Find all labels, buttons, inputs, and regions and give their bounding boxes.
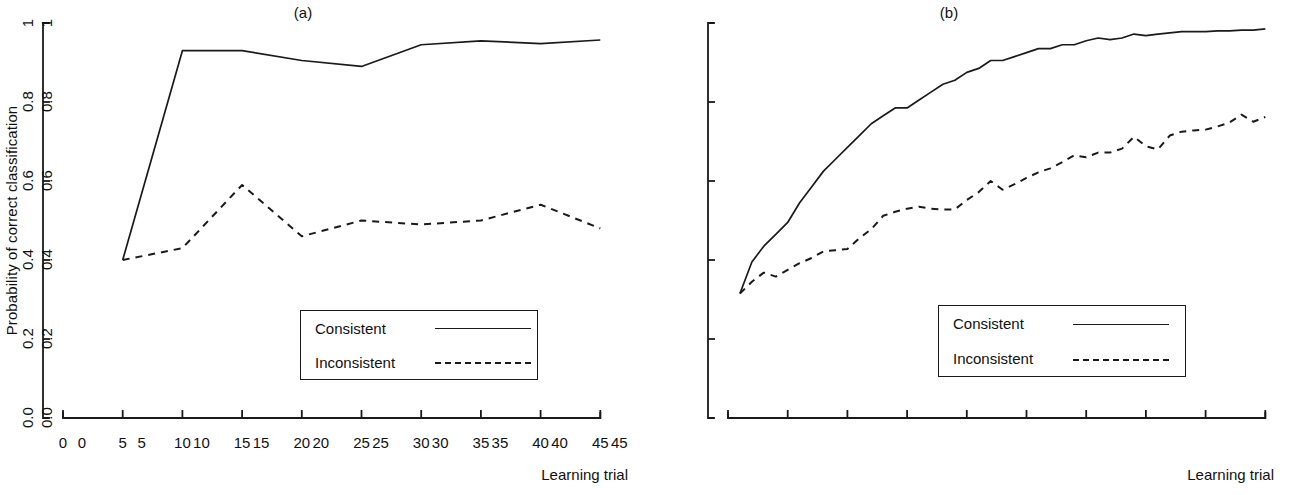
x-tick-label: 40: [551, 434, 568, 451]
y-tick-label: 0.6: [36, 173, 56, 190]
x-axis-line: [63, 412, 600, 418]
y-tick-label-text: 0.0: [19, 408, 36, 428]
x-tick-label: 45: [611, 434, 628, 451]
x-tick-label: 25: [353, 434, 370, 451]
x-tick-label: 5: [138, 434, 146, 451]
panel-a-legend-row-consistent: Consistent: [301, 311, 537, 345]
y-tick-label: 0.4: [17, 252, 37, 269]
x-tick-label: 25: [372, 434, 389, 451]
x-tick-label: 5: [119, 434, 127, 451]
y-tick-label-text: 0.6: [38, 171, 55, 191]
y-tick-label-text: 1: [19, 13, 36, 33]
y-tick-label-text: 0.0: [38, 408, 55, 428]
panel-b-legend-label-consistent: Consistent: [953, 315, 1065, 332]
series-line-inconsistent: [740, 115, 1265, 294]
chart-panel-a: (a) Probability of correct classificatio…: [0, 0, 646, 495]
y-tick-label: 0.6: [17, 173, 37, 190]
panel-b-plot-area: [646, 0, 1292, 495]
x-tick-label: 35: [492, 434, 509, 451]
x-tick-label: 35: [473, 434, 490, 451]
y-tick-label: 1: [36, 15, 56, 32]
panel-a-legend-label-consistent: Consistent: [315, 320, 427, 337]
panel-b-legend-label-inconsistent: Inconsistent: [953, 350, 1065, 367]
x-tick-label: 10: [193, 434, 210, 451]
x-tick-label: 0: [78, 434, 86, 451]
x-tick-label: 20: [293, 434, 310, 451]
y-tick-label: 0.4: [36, 252, 56, 269]
chart-panel-b: (b) Probability of correct classificatio…: [646, 0, 1292, 495]
x-tick-label: 15: [234, 434, 251, 451]
panel-b-legend-key-solid: [1073, 318, 1169, 330]
y-tick-label-text: 0.2: [38, 329, 55, 349]
panel-b-legend-row-consistent: Consistent: [939, 306, 1185, 341]
panel-b-legend-key-dashed: [1073, 353, 1169, 365]
y-tick-label: 1: [17, 15, 37, 32]
y-tick-label-text: 0.4: [38, 250, 55, 270]
panel-a-legend-key-solid: [435, 322, 531, 334]
y-tick-label-text: 0.8: [19, 92, 36, 112]
y-tick-label: 0.0: [17, 410, 37, 427]
x-axis-line: [728, 412, 1265, 418]
x-tick-label: 15: [253, 434, 270, 451]
y-axis-line: [43, 23, 49, 418]
figure-container: (a) Probability of correct classificatio…: [0, 0, 1292, 495]
series-line-consistent: [123, 40, 601, 260]
panel-b-legend-row-inconsistent: Inconsistent: [939, 341, 1185, 376]
x-tick-label: 40: [532, 434, 549, 451]
panel-a-legend: Consistent Inconsistent: [300, 310, 538, 380]
panel-b-x-axis-label: Learning trial: [1187, 466, 1274, 483]
y-tick-label-text: 0.4: [19, 250, 36, 270]
y-tick-label: 0.2: [17, 331, 37, 348]
x-tick-label: 20: [312, 434, 329, 451]
series-line-inconsistent: [123, 185, 601, 260]
y-tick-label: 0.8: [17, 94, 37, 111]
panel-b-legend: Consistent Inconsistent: [938, 305, 1186, 377]
y-tick-label-text: 0.8: [38, 92, 55, 112]
panel-a-legend-row-inconsistent: Inconsistent: [301, 345, 537, 379]
panel-a-plot-area: [0, 0, 646, 495]
y-tick-label: 0.8: [36, 94, 56, 111]
y-tick-label: 0.2: [36, 331, 56, 348]
x-tick-label: 30: [413, 434, 430, 451]
panel-a-legend-label-inconsistent: Inconsistent: [315, 354, 427, 371]
y-tick-label-text: 1: [38, 13, 55, 33]
y-tick-label-text: 0.2: [19, 329, 36, 349]
panel-a-legend-key-dashed: [435, 356, 531, 368]
panel-a-x-axis-label: Learning trial: [541, 466, 628, 483]
x-tick-label: 0: [59, 434, 67, 451]
x-tick-label: 10: [174, 434, 191, 451]
y-tick-label: 0.0: [36, 410, 56, 427]
x-tick-label: 45: [592, 434, 609, 451]
y-axis-line: [708, 23, 714, 418]
x-tick-label: 30: [432, 434, 449, 451]
y-tick-label-text: 0.6: [19, 171, 36, 191]
